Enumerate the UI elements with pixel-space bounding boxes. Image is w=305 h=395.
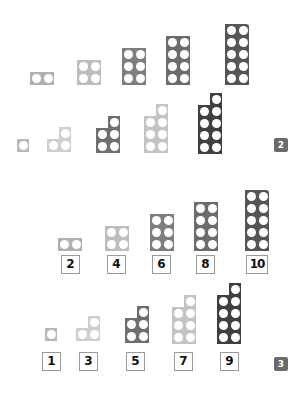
number-label-box: 8 [196,255,215,274]
number-block-6 [122,48,146,85]
number-block-5 [125,306,149,343]
number-label-box: 10 [246,255,268,274]
block-hole [162,238,174,251]
number-block-1 [17,139,29,152]
number-label-box: 2 [61,255,80,274]
number-block-6 [150,214,174,251]
block-hole [217,331,229,344]
block-hole [45,328,57,341]
block-hole [70,238,82,251]
number-block-3 [76,316,100,341]
number-block-8 [166,36,190,85]
block-hole [47,139,59,152]
block-hole [137,330,149,343]
block-hole [108,140,120,153]
block-hole [42,72,54,85]
panel-number-badge: 2 [274,138,288,152]
block-hole [96,140,108,153]
block-hole [245,238,257,251]
block-hole [117,238,129,251]
number-block-9 [198,93,222,154]
number-label-box: 5 [126,352,145,371]
block-hole [194,238,206,251]
block-hole [134,72,146,85]
block-hole [210,141,222,154]
number-label-box: 6 [152,255,171,274]
number-label-box: 4 [107,255,126,274]
block-hole [30,72,42,85]
number-block-10 [225,24,249,85]
block-hole [237,72,249,85]
block-hole [225,72,237,85]
panel-number-badge: 3 [274,357,288,371]
number-block-7 [172,295,196,344]
block-hole [77,72,89,85]
number-label-box: 3 [79,352,98,371]
number-block-7 [144,104,168,153]
number-block-2 [58,238,82,251]
block-hole [206,238,218,251]
block-hole [229,331,241,344]
number-label-box: 7 [174,352,193,371]
block-hole [58,238,70,251]
block-hole [172,331,184,344]
number-block-4 [105,226,129,251]
block-hole [17,139,29,152]
block-hole [105,238,117,251]
number-block-2 [30,72,54,85]
block-hole [178,72,190,85]
block-hole [88,328,100,341]
number-block-4 [77,60,101,85]
block-hole [76,328,88,341]
block-hole [184,331,196,344]
block-hole [125,330,137,343]
number-label-box: 1 [42,352,61,371]
number-label-box: 9 [220,352,239,371]
block-hole [59,139,71,152]
block-hole [122,72,134,85]
block-hole [166,72,178,85]
block-hole [198,141,210,154]
number-block-8 [194,202,218,251]
block-hole [156,140,168,153]
number-block-9 [217,283,241,344]
block-hole [257,238,269,251]
block-hole [89,72,101,85]
number-block-3 [47,127,71,152]
block-hole [144,140,156,153]
number-block-5 [96,116,120,153]
number-block-10 [245,190,269,251]
number-block-1 [45,328,57,341]
block-hole [150,238,162,251]
